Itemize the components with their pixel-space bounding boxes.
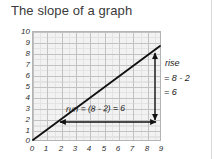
- x-axis-tick-5: 5: [98, 144, 110, 153]
- x-axis-tick-2: 2: [55, 144, 67, 153]
- y-axis-tick-9: 9: [16, 38, 30, 47]
- rise-calculation-line-1: = 8 - 2: [164, 73, 190, 83]
- y-axis-tick-7: 7: [16, 60, 30, 69]
- x-axis-tick-9: 9: [155, 144, 167, 153]
- y-axis-tick-3: 3: [16, 104, 30, 113]
- y-axis-tick-10: 10: [16, 27, 30, 36]
- y-axis-tick-8: 8: [16, 49, 30, 58]
- rise-calculation-line-2: = 6: [164, 87, 177, 97]
- x-axis-tick-6: 6: [112, 144, 124, 153]
- y-axis-tick-4: 4: [16, 93, 30, 102]
- y-axis-tick-1: 1: [16, 126, 30, 135]
- x-axis-tick-4: 4: [83, 144, 95, 153]
- x-axis-tick-8: 8: [141, 144, 153, 153]
- y-axis-tick-5: 5: [16, 82, 30, 91]
- x-axis-tick-1: 1: [40, 144, 52, 153]
- rise-annotation-label: rise: [165, 58, 180, 68]
- x-axis-tick-0: 0: [26, 144, 38, 153]
- page-title: The slope of a graph: [11, 3, 132, 18]
- plot-area: [32, 31, 161, 141]
- x-axis-tick-7: 7: [126, 144, 138, 153]
- y-axis-tick-2: 2: [16, 115, 30, 124]
- major-gridlines: [33, 32, 160, 140]
- run-annotation-label: run = (8 - 2) = 6: [66, 103, 125, 114]
- y-axis-tick-6: 6: [16, 71, 30, 80]
- slope-graph-figure: The slope of a graph 10 9 8 7 6 5 4 3 2 …: [0, 0, 218, 159]
- x-axis-tick-3: 3: [69, 144, 81, 153]
- page-divider: [211, 0, 212, 159]
